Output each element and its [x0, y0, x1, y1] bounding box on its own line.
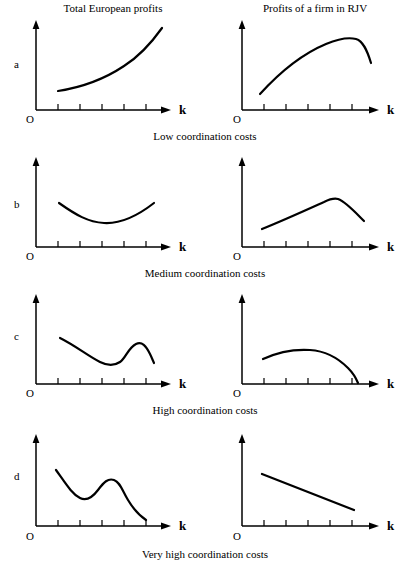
origin-label: O — [26, 113, 34, 125]
row-caption-medium: Medium coordination costs — [0, 267, 410, 280]
row-label-b: b — [14, 198, 20, 210]
x-axis-label: k — [179, 239, 187, 254]
panel-b-right: k O — [232, 155, 410, 263]
origin-label: O — [26, 530, 34, 542]
origin-label: O — [233, 387, 241, 399]
origin-label: O — [26, 387, 34, 399]
x-axis-label: k — [179, 102, 187, 117]
origin-label: O — [233, 113, 241, 125]
x-axis-label: k — [387, 102, 395, 117]
panel-d-left: d k O — [14, 432, 204, 544]
x-axis-label: k — [179, 376, 187, 391]
panel-c-left: c k O — [14, 292, 204, 400]
panel-a-right: k O — [232, 18, 410, 126]
x-axis-label: k — [387, 239, 395, 254]
figure-panel-grid: Total European profits Profits of a firm… — [0, 0, 410, 567]
row-label-d: d — [14, 470, 20, 482]
x-axis-label: k — [387, 518, 395, 533]
panel-c-right: k O — [232, 292, 410, 400]
origin-label: O — [233, 530, 241, 542]
row-caption-very-high: Very high coordination costs — [0, 548, 410, 561]
panel-d-right: k O — [232, 432, 410, 544]
row-label-c: c — [14, 330, 19, 342]
row-caption-high: High coordination costs — [0, 404, 410, 417]
x-axis-label: k — [179, 518, 187, 533]
panel-a-left: a k O — [14, 18, 204, 126]
row-label-a: a — [14, 58, 19, 70]
column-header-total-european-profits: Total European profits — [28, 2, 198, 15]
x-axis-label: k — [387, 376, 395, 391]
origin-label: O — [233, 250, 241, 262]
origin-label: O — [26, 250, 34, 262]
panel-b-left: b k O — [14, 155, 204, 263]
column-header-profits-firm-rjv: Profits of a firm in RJV — [222, 2, 408, 15]
row-caption-low: Low coordination costs — [0, 130, 410, 143]
